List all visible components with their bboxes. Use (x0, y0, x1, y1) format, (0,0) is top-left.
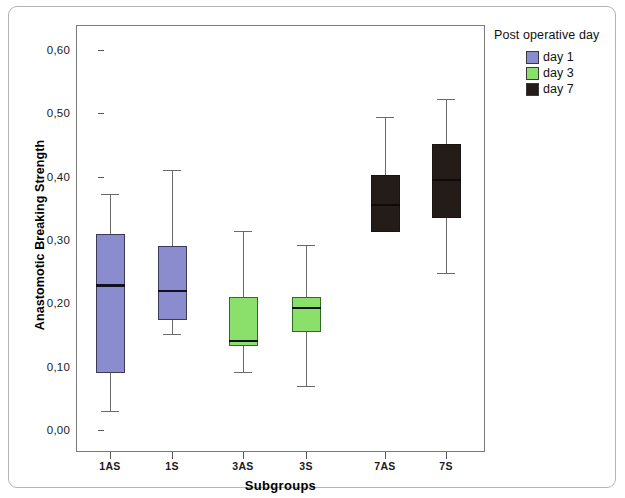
legend-entry-day-3: day 3 (526, 66, 619, 80)
whisker-cap-upper (234, 231, 252, 232)
median-line (371, 204, 400, 206)
whisker-lower (110, 373, 111, 411)
x-tick-label-7as: 7AS (355, 460, 415, 472)
y-tick-label: 0,60 (47, 44, 70, 56)
y-tick-label: 0,00 (47, 424, 70, 436)
y-tick-label: 0,50 (47, 107, 70, 119)
legend-swatch-icon (526, 67, 539, 80)
whisker-upper (446, 99, 447, 144)
whisker-upper (243, 231, 244, 297)
whisker-lower (306, 332, 307, 386)
whisker-upper (306, 245, 307, 297)
x-tick-label-1s: 1S (142, 460, 202, 472)
whisker-lower (243, 346, 244, 373)
legend-entry-label: day 1 (543, 50, 574, 64)
y-tick-label: 0,30 (47, 234, 70, 246)
x-tick-mark (446, 452, 447, 459)
whisker-upper (110, 194, 111, 233)
legend-entry-day-1: day 1 (526, 50, 619, 64)
x-tick-label-3as: 3AS (213, 460, 273, 472)
whisker-cap-lower (297, 386, 315, 387)
whisker-cap-upper (101, 194, 119, 195)
whisker-cap-upper (437, 99, 455, 100)
whisker-lower (172, 320, 173, 334)
whisker-lower (446, 218, 447, 273)
x-tick-mark (243, 452, 244, 459)
whisker-cap-upper (163, 170, 181, 171)
legend-entry-day-7: day 7 (526, 82, 619, 96)
x-tick-mark (172, 452, 173, 459)
x-tick-label-3s: 3S (276, 460, 336, 472)
x-tick-mark (385, 452, 386, 459)
median-line (292, 307, 321, 309)
y-axis-title: Anastomotic Breaking Strength (33, 115, 47, 355)
median-line (432, 179, 461, 181)
x-tick-mark (110, 452, 111, 459)
y-tick-label: 0,20 (47, 297, 70, 309)
whisker-cap-lower (101, 411, 119, 412)
x-axis-title: Subgroups (76, 478, 485, 493)
legend-entry-label: day 7 (543, 82, 574, 96)
legend: Post operative day day 1day 3day 7 (494, 28, 619, 98)
y-tick-label: 0,10 (47, 361, 70, 373)
boxplot-chart: 0,000,100,200,300,400,500,60 Anastomotic… (0, 0, 625, 498)
legend-entry-label: day 3 (543, 66, 574, 80)
y-tick-mark (98, 50, 104, 51)
legend-entries: day 1day 3day 7 (494, 50, 619, 96)
box-iqr (292, 297, 321, 332)
y-tick-mark (98, 430, 104, 431)
median-line (96, 284, 125, 286)
whisker-cap-lower (234, 372, 252, 373)
box-iqr (229, 297, 258, 346)
plot-frame (76, 25, 485, 452)
median-line (158, 290, 187, 292)
whisker-cap-upper (376, 117, 394, 118)
legend-swatch-icon (526, 51, 539, 64)
y-tick-mark (98, 177, 104, 178)
box-iqr (96, 234, 125, 373)
legend-swatch-icon (526, 83, 539, 96)
box-iqr (158, 246, 187, 320)
median-line (229, 340, 258, 342)
y-tick-mark (98, 113, 104, 114)
x-tick-label-1as: 1AS (80, 460, 140, 472)
whisker-upper (172, 170, 173, 247)
legend-title: Post operative day (494, 28, 619, 42)
x-tick-label-7s: 7S (416, 460, 476, 472)
x-tick-mark (306, 452, 307, 459)
whisker-cap-upper (297, 245, 315, 246)
whisker-cap-lower (437, 273, 455, 274)
whisker-upper (385, 117, 386, 175)
y-tick-label: 0,40 (47, 171, 70, 183)
whisker-cap-lower (163, 334, 181, 335)
